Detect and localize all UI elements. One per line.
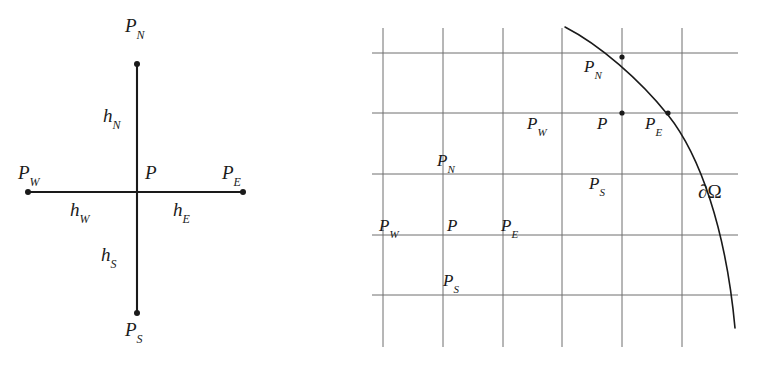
interior-label-PN: PN	[437, 152, 455, 172]
boundary-label-PS: PS	[589, 175, 605, 195]
boundary-label-PW-base: P	[527, 114, 537, 133]
stencil-label-PE-base: P	[222, 162, 234, 183]
boundary-node-dots	[619, 54, 670, 115]
stencil-label-PN: PN	[125, 16, 145, 38]
spacing-label-hN-base: h	[103, 105, 113, 126]
spacing-label-hN: hN	[103, 106, 121, 128]
stencil-node-dots	[25, 61, 246, 316]
boundary-dot-PE	[665, 110, 670, 115]
domain-boundary-label: ∂Ω	[698, 182, 722, 201]
interior-label-P: P	[447, 217, 457, 234]
boundary-label-P: P	[597, 115, 607, 132]
interior-label-PS-base: P	[443, 271, 453, 290]
stencil-label-PE-subscript: E	[234, 175, 241, 189]
interior-label-PS: PS	[443, 272, 459, 292]
partial-symbol: ∂	[698, 181, 707, 202]
figure-root: PNPWPPEPS hNhWhEhS PNPWPPEPS PNPWPPEPS ∂…	[0, 0, 771, 380]
left-panel-graphics	[0, 0, 771, 380]
interior-label-PW-subscript: W	[389, 228, 398, 240]
interior-label-PN-base: P	[437, 151, 447, 170]
omega-symbol: Ω	[707, 181, 721, 202]
stencil-dot-PW	[25, 189, 31, 195]
boundary-label-PW-subscript: W	[537, 126, 546, 138]
boundary-label-PN-base: P	[584, 57, 594, 76]
spacing-label-hS-subscript: S	[111, 257, 117, 271]
stencil-label-PW-subscript: W	[30, 175, 40, 189]
stencil-label-PS-subscript: S	[137, 332, 143, 346]
interior-label-PE: PE	[501, 217, 518, 237]
stencil-label-P-base: P	[145, 162, 157, 183]
stencil-axes	[28, 64, 243, 313]
stencil-dot-PS	[134, 310, 140, 316]
boundary-label-PW: PW	[527, 115, 547, 135]
stencil-label-PE: PE	[222, 163, 241, 185]
grid-lines	[372, 28, 738, 347]
boundary-label-PE: PE	[645, 115, 662, 135]
boundary-label-PE-subscript: E	[655, 126, 662, 138]
spacing-label-hS: hS	[101, 245, 117, 267]
boundary-label-PN-subscript: N	[594, 69, 601, 81]
spacing-label-hW-subscript: W	[80, 212, 90, 226]
boundary-label-PN: PN	[584, 58, 602, 78]
boundary-dot-P	[619, 110, 624, 115]
spacing-label-hE-subscript: E	[183, 212, 190, 226]
spacing-label-hW: hW	[70, 200, 90, 222]
boundary-dot-PN	[619, 54, 624, 59]
boundary-label-P-base: P	[597, 114, 607, 133]
stencil-label-PW-base: P	[18, 162, 30, 183]
interior-label-PW: PW	[379, 217, 399, 237]
interior-label-PW-base: P	[379, 216, 389, 235]
stencil-label-PS: PS	[125, 320, 143, 342]
spacing-label-hE: hE	[173, 200, 190, 222]
interior-label-PS-subscript: S	[453, 283, 459, 295]
spacing-label-hN-subscript: N	[113, 118, 121, 132]
interior-label-PN-subscript: N	[447, 163, 454, 175]
interior-label-P-base: P	[447, 216, 457, 235]
boundary-label-PS-subscript: S	[599, 186, 605, 198]
boundary-label-PE-base: P	[645, 114, 655, 133]
stencil-label-PN-base: P	[125, 15, 137, 36]
spacing-label-hS-base: h	[101, 244, 111, 265]
stencil-label-P: P	[145, 163, 157, 182]
stencil-label-PW: PW	[18, 163, 40, 185]
spacing-label-hW-base: h	[70, 199, 80, 220]
stencil-dot-PE	[240, 189, 246, 195]
stencil-label-PN-subscript: N	[137, 28, 145, 42]
stencil-dot-PN	[134, 61, 140, 67]
interior-label-PE-base: P	[501, 216, 511, 235]
interior-label-PE-subscript: E	[511, 228, 518, 240]
spacing-label-hE-base: h	[173, 199, 183, 220]
boundary-label-PS-base: P	[589, 174, 599, 193]
stencil-label-PS-base: P	[125, 319, 137, 340]
